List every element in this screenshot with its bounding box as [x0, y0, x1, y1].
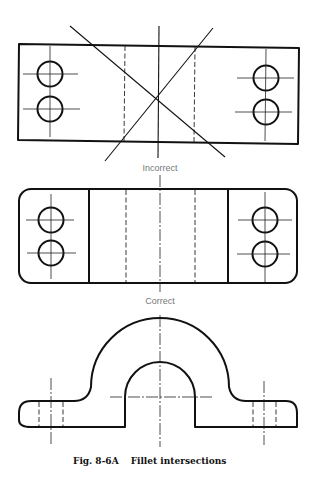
- incorrect-view: [18, 26, 299, 161]
- figure-title: Fillet intersections: [131, 456, 227, 466]
- left-holes: [26, 194, 76, 279]
- figure-caption: Fig. 8-6AFillet intersections: [73, 456, 226, 466]
- left-holes: [23, 46, 80, 137]
- technical-drawing: Incorrect Correct: [0, 0, 315, 484]
- plate-outline: [19, 189, 297, 283]
- correct-view: [19, 175, 297, 292]
- hidden-line-right: [194, 47, 195, 142]
- incorrect-label: Incorrect: [142, 163, 178, 173]
- figure-number: Fig. 8-6A: [73, 456, 120, 466]
- front-view: [19, 315, 297, 447]
- bracket-outline: [19, 318, 297, 427]
- right-holes: [235, 49, 294, 141]
- correct-label: Correct: [145, 296, 175, 306]
- right-holes: [237, 192, 292, 282]
- hidden-line-left: [124, 46, 125, 141]
